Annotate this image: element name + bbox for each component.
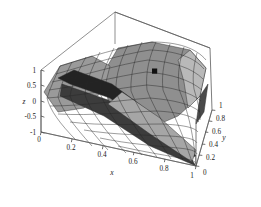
z-tick-label-m1: -1 [30, 129, 36, 137]
x-tick-label-0: 0 [37, 136, 41, 144]
x-tick-0 [40, 132, 41, 135]
y-tick-label-02: 0.2 [206, 154, 215, 162]
y-tick-label-04: 0.4 [209, 141, 218, 149]
y-tick-label-1: 1 [219, 102, 223, 110]
y-axis-title: y [221, 133, 226, 142]
z-tick-label-1: 1 [32, 67, 36, 75]
z-tick-label-05: 0.5 [27, 82, 36, 90]
box-edge-right-top [115, 12, 210, 48]
surface-point-marker [152, 69, 157, 74]
z-tick-05 [41, 85, 44, 86]
plot-canvas: 1 0.5 0 -0.5 -1 z 0 0.2 0.4 0.6 0.8 1 x … [0, 0, 261, 207]
x-tick-04 [102, 146, 103, 149]
z-tick-m05 [41, 116, 44, 117]
x-tick-label-08: 0.8 [160, 165, 169, 173]
box-edge-right-vert [210, 48, 212, 110]
x-tick-02 [71, 139, 72, 142]
z-axis-title: z [22, 97, 26, 106]
y-tick-label-0: 0 [203, 169, 207, 177]
z-tick-0 [41, 101, 44, 102]
z-tick-label-0: 0 [32, 98, 36, 106]
x-tick-label-06: 0.6 [129, 158, 138, 166]
x-tick-label-04: 0.4 [98, 151, 107, 159]
x-tick-1 [195, 166, 196, 169]
x-tick-label-02: 0.2 [67, 144, 76, 152]
y-tick-label-06: 0.6 [212, 128, 221, 136]
z-tick-1 [41, 70, 44, 71]
z-tick-labels: 1 0.5 0 -0.5 -1 [25, 67, 37, 137]
x-tick-label-1: 1 [190, 172, 194, 180]
x-axis-title: x [109, 168, 114, 177]
y-tick-label-08: 0.8 [216, 115, 225, 123]
z-axis [41, 70, 44, 133]
z-tick-label-m05: -0.5 [25, 113, 37, 121]
surface-plot-figure: 1 0.5 0 -0.5 -1 z 0 0.2 0.4 0.6 0.8 1 x … [0, 0, 261, 207]
